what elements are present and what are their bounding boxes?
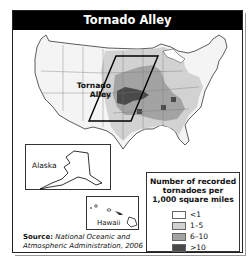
- legend-swatch: [172, 211, 186, 219]
- hawaii-inset: Hawaii: [86, 196, 139, 230]
- tornado-alley-label-text: Tornado Alley: [77, 81, 111, 99]
- source-text-line: National Oceanic and: [55, 233, 130, 241]
- legend-title: Number of recorded tornadoes per 1,000 s…: [147, 177, 239, 204]
- legend: Number of recorded tornadoes per 1,000 s…: [146, 172, 240, 252]
- map-figure: Tornado Alley: [12, 10, 243, 253]
- legend-item: 1–5: [172, 221, 203, 230]
- source-label: Source:: [23, 233, 53, 241]
- source-text-line: Atmospheric Administration, 2006: [23, 242, 143, 250]
- legend-item-label: 6–10: [190, 232, 208, 241]
- legend-swatch: [172, 233, 186, 241]
- alaska-inset: Alaska: [25, 144, 111, 190]
- legend-item: >10: [172, 243, 206, 252]
- legend-item-label: >10: [190, 243, 206, 252]
- alaska-label: Alaska: [32, 161, 57, 170]
- legend-title-line: Number of recorded: [147, 177, 239, 186]
- region-over-10-patch: [171, 97, 176, 102]
- legend-title-line: tornadoes per: [147, 186, 239, 195]
- legend-swatch: [172, 222, 186, 230]
- region-over-10-patch: [161, 105, 166, 110]
- legend-item: 6–10: [172, 232, 208, 241]
- legend-item-label: <1: [190, 210, 201, 219]
- tornado-alley-label: Tornado Alley: [71, 81, 111, 99]
- legend-item: <1: [172, 210, 201, 219]
- legend-title-line: 1,000 square miles: [147, 195, 239, 204]
- legend-swatch: [172, 244, 186, 252]
- legend-item-label: 1–5: [190, 221, 203, 230]
- source-citation: Source: National Oceanic and Atmospheric…: [23, 233, 143, 251]
- hawaii-label: Hawaii: [97, 219, 120, 227]
